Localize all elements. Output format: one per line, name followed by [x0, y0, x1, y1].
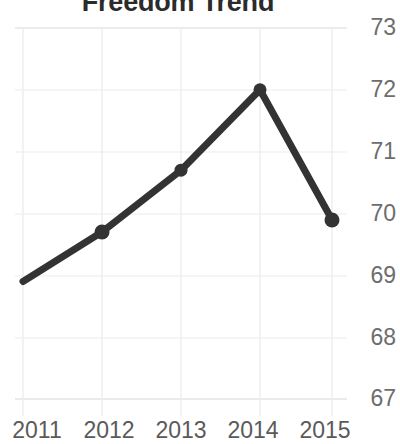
x-axis-tick-label: 2013 — [155, 419, 206, 442]
vertical-gridlines — [23, 28, 332, 416]
data-point-2013[interactable] — [254, 83, 267, 96]
y-axis-tick-label: 73 — [370, 16, 396, 39]
series-line-freedom-score — [23, 90, 332, 282]
x-axis-tick-label: 2014 — [227, 419, 278, 442]
y-axis-tick-label: 71 — [370, 140, 396, 163]
data-point-2012[interactable] — [175, 164, 188, 177]
y-axis-tick-label: 68 — [370, 326, 396, 349]
data-point-2011[interactable] — [95, 225, 110, 240]
y-axis-tick-label: 72 — [370, 78, 396, 101]
line-chart: Freedom Trend 73 72 71 70 — [0, 0, 400, 444]
y-axis-tick-label: 69 — [370, 264, 396, 287]
x-axis-tick-label: 2012 — [83, 419, 134, 442]
x-axis-tick-label: 2011 — [12, 419, 61, 442]
x-axis-tick-label: 2015 — [299, 419, 350, 442]
y-axis-tick-label: 70 — [370, 202, 396, 225]
plot-area — [0, 0, 400, 444]
y-axis-tick-label: 67 — [370, 387, 396, 410]
data-point-2015[interactable] — [325, 213, 340, 228]
